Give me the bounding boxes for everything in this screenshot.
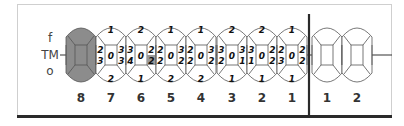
tooth-left-1[interactable]: 1230221 bbox=[277, 25, 307, 84]
value-top: 2 bbox=[138, 25, 144, 35]
value-bottom: 1 bbox=[138, 74, 144, 84]
value-mesial-upper: 2 bbox=[97, 45, 103, 55]
tooth-left-6[interactable]: 2340221 bbox=[126, 25, 156, 84]
value-mesial-upper: 2 bbox=[157, 45, 163, 55]
value-top: 1 bbox=[198, 25, 204, 35]
teeth-diagram: 1230332234022112203221220322232031123102… bbox=[0, 0, 404, 126]
value-distal-lower: 2 bbox=[299, 56, 305, 66]
value-bottom: 1 bbox=[229, 74, 235, 84]
tooth-outline bbox=[312, 28, 342, 82]
value-bottom: 1 bbox=[259, 74, 265, 84]
value-distal-upper: 2 bbox=[299, 45, 305, 55]
value-center: 0 bbox=[108, 51, 114, 61]
tooth-left-3[interactable]: 2320311 bbox=[217, 25, 247, 84]
value-mesial-lower: 1 bbox=[248, 56, 254, 66]
value-distal-upper: 3 bbox=[239, 45, 245, 55]
tooth-number-left-5: 5 bbox=[161, 91, 181, 105]
value-mesial-upper: 3 bbox=[127, 45, 133, 55]
value-distal-lower: 1 bbox=[239, 56, 245, 66]
value-mesial-lower: 4 bbox=[126, 56, 133, 66]
value-bottom: 2 bbox=[168, 74, 174, 84]
tooth-left-2[interactable]: 2310221 bbox=[247, 25, 277, 84]
value-distal-upper: 3 bbox=[118, 45, 124, 55]
tooth-number-right-1: 1 bbox=[317, 91, 337, 105]
tooth-number-left-4: 4 bbox=[191, 91, 211, 105]
value-mesial-lower: 2 bbox=[218, 56, 224, 66]
value-mesial-lower: 2 bbox=[187, 56, 193, 66]
value-distal-upper: 3 bbox=[178, 45, 184, 55]
periodontal-chart: f TM o 123033223402211220322122032223203… bbox=[0, 0, 404, 126]
value-top: 1 bbox=[108, 25, 114, 35]
value-mesial-lower: 3 bbox=[97, 56, 103, 66]
value-top: 1 bbox=[168, 25, 174, 35]
tooth-number-left-7: 7 bbox=[101, 91, 121, 105]
value-mesial-upper: 3 bbox=[218, 45, 224, 55]
value-top: 2 bbox=[229, 25, 235, 35]
value-mesial-lower: 3 bbox=[278, 56, 284, 66]
tooth-left-5[interactable]: 1220322 bbox=[156, 25, 186, 84]
value-distal-lower: 2 bbox=[148, 56, 154, 66]
tooth-left-4[interactable]: 1220322 bbox=[186, 25, 216, 84]
tooth-number-left-3: 3 bbox=[222, 91, 242, 105]
tooth-right-1[interactable] bbox=[312, 28, 342, 82]
value-bottom: 2 bbox=[198, 74, 204, 84]
tooth-number-left-1: 1 bbox=[282, 91, 302, 105]
value-distal-lower: 2 bbox=[178, 56, 184, 66]
value-distal-lower: 3 bbox=[118, 56, 124, 66]
value-top: 2 bbox=[259, 25, 265, 35]
tooth-outline bbox=[342, 28, 372, 82]
value-mesial-upper: 3 bbox=[248, 45, 254, 55]
value-center: 0 bbox=[198, 51, 204, 61]
value-center: 0 bbox=[289, 51, 295, 61]
tooth-right-2[interactable] bbox=[342, 28, 372, 82]
value-bottom: 2 bbox=[108, 74, 114, 84]
tooth-number-left-2: 2 bbox=[252, 91, 272, 105]
value-center: 0 bbox=[168, 51, 174, 61]
value-mesial-upper: 2 bbox=[187, 45, 193, 55]
tooth-number-right-2: 2 bbox=[347, 91, 367, 105]
tooth-number-left-6: 6 bbox=[131, 91, 151, 105]
tooth-outline bbox=[66, 28, 96, 82]
value-mesial-lower: 2 bbox=[157, 56, 163, 66]
tooth-left-8[interactable] bbox=[66, 28, 96, 82]
tooth-left-7[interactable]: 1230332 bbox=[96, 25, 126, 84]
value-distal-lower: 2 bbox=[269, 56, 275, 66]
value-mesial-upper: 2 bbox=[278, 45, 284, 55]
value-center: 0 bbox=[259, 51, 265, 61]
value-distal-upper: 3 bbox=[208, 45, 214, 55]
tooth-number-left-8: 8 bbox=[71, 91, 91, 105]
value-top: 1 bbox=[289, 25, 295, 35]
value-distal-upper: 2 bbox=[148, 45, 154, 55]
value-bottom: 1 bbox=[289, 74, 295, 84]
value-center: 0 bbox=[138, 51, 144, 61]
value-center: 0 bbox=[229, 51, 235, 61]
value-distal-upper: 2 bbox=[269, 45, 275, 55]
value-distal-lower: 2 bbox=[208, 56, 214, 66]
